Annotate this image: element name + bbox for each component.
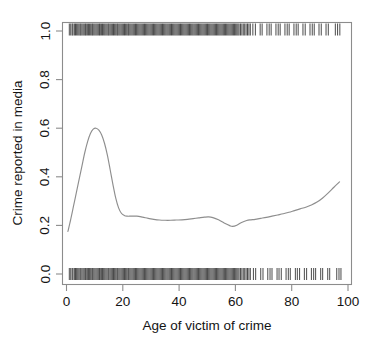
x-tick-label: 0: [63, 294, 71, 309]
chart-figure: 0.00.20.40.60.81.0 020406080100 Age of v…: [0, 0, 378, 340]
y-tick-label: 0.8: [38, 70, 53, 89]
x-axis-title: Age of victim of crime: [142, 318, 271, 333]
y-tick-label: 0.4: [38, 167, 53, 186]
y-tick-label: 0.6: [38, 119, 53, 138]
y-tick-label: 0.0: [38, 265, 53, 284]
y-axis-title: Crime reported in media: [10, 80, 25, 225]
chart-background: [0, 0, 378, 340]
x-tick-label: 80: [284, 294, 299, 309]
x-tick-label: 60: [228, 294, 243, 309]
x-tick-label: 20: [115, 294, 130, 309]
scatter-smooth-plot: 0.00.20.40.60.81.0 020406080100 Age of v…: [0, 0, 378, 340]
y-tick-label: 1.0: [38, 22, 53, 41]
x-tick-label: 100: [337, 294, 360, 309]
x-tick-label: 40: [172, 294, 187, 309]
y-tick-label: 0.2: [38, 216, 53, 235]
